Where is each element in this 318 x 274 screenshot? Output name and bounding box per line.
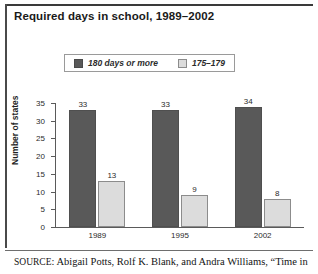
- y-tick-label-0: 0: [41, 223, 45, 232]
- y-tick-30: 30: [51, 121, 55, 122]
- bar-groups: 3313198933919953482002: [56, 103, 304, 227]
- legend-item-180-days-or-more: 180 days or more: [74, 58, 158, 68]
- bar-group-2002: 3482002: [221, 103, 304, 227]
- legend-label-180-days-or-more: 180 days or more: [88, 58, 158, 68]
- y-tick-25: 25: [51, 138, 55, 139]
- legend-swatch-icon-light: [178, 59, 187, 68]
- y-tick-label-10: 10: [36, 187, 45, 196]
- bar-value-2002-series-2: 8: [275, 189, 279, 198]
- bar-value-1989-series-1: 33: [78, 100, 87, 109]
- source-divider: [5, 250, 313, 251]
- y-tick-15: 15: [51, 174, 55, 175]
- y-tick-10: 10: [51, 192, 55, 193]
- bar-value-2002-series-1: 34: [244, 97, 253, 106]
- chart-title: Required days in school, 1989–2002: [14, 10, 214, 22]
- y-tick-label-25: 25: [36, 134, 45, 143]
- y-tick-20: 20: [51, 156, 55, 157]
- source-prefix: SOURCE: [14, 257, 51, 267]
- legend-item-175-179: 175–179: [178, 58, 225, 68]
- y-tick-0: 0: [51, 227, 55, 228]
- y-tick-label-35: 35: [36, 99, 45, 108]
- y-tick-label-30: 30: [36, 116, 45, 125]
- y-tick-label-15: 15: [36, 169, 45, 178]
- y-axis-title: Number of states: [10, 96, 20, 165]
- bar-1989-series-1: 33: [69, 110, 96, 227]
- bar-2002-series-1: 34: [235, 107, 262, 227]
- bar-1995-series-2: 9: [181, 195, 208, 227]
- x-tick-label-1989: 1989: [88, 231, 106, 240]
- plot-area: 05101520253035 3313198933919953482002: [55, 103, 303, 227]
- chart-legend: 180 days or more 175–179: [64, 54, 235, 72]
- bar-group-1995: 3391995: [139, 103, 222, 227]
- left-divider: [5, 4, 7, 248]
- figure-chart-required-days-in-school: Required days in school, 1989–2002 180 d…: [0, 0, 318, 274]
- legend-swatch-icon-dark: [74, 59, 83, 68]
- bar-2002-series-2: 8: [264, 199, 291, 227]
- bar-group-1989: 33131989: [56, 103, 139, 227]
- source-text: Abigail Potts, Rolf K. Blank, and Andra …: [56, 256, 307, 267]
- bar-1995-series-1: 33: [152, 110, 179, 227]
- bar-value-1995-series-2: 9: [192, 185, 196, 194]
- x-axis-line: [55, 227, 304, 228]
- x-tick-label-2002: 2002: [254, 231, 272, 240]
- bar-1989-series-2: 13: [98, 181, 125, 227]
- bar-value-1995-series-1: 33: [161, 100, 170, 109]
- bar-value-1989-series-2: 13: [107, 171, 116, 180]
- legend-label-175-179: 175–179: [192, 58, 225, 68]
- x-tick-label-1995: 1995: [171, 231, 189, 240]
- y-tick-5: 5: [51, 209, 55, 210]
- source-note: SOURCE: Abigail Potts, Rolf K. Blank, an…: [14, 256, 308, 267]
- y-tick-label-20: 20: [36, 152, 45, 161]
- top-divider: [5, 4, 313, 6]
- y-tick-label-5: 5: [41, 205, 45, 214]
- y-tick-35: 35: [51, 103, 55, 104]
